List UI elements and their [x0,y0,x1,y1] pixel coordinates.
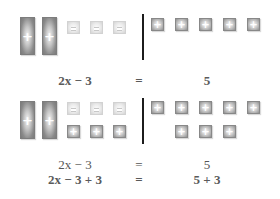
minus-unit-tile [90,21,103,34]
equation-rhs: 5 + 3 [177,172,237,188]
minus-icon [71,27,76,31]
plus-unit-tile: + [223,101,236,114]
plus-icon: + [248,102,259,113]
minus-icon [71,108,76,112]
equation-lhs: 2x − 3 [30,73,120,89]
minus-unit-tile [90,102,103,115]
equation-rhs: 5 [177,157,237,173]
plus-icon: + [43,18,56,54]
added-plus-unit-tile: + [199,125,212,138]
plus-icon: + [152,19,163,30]
plus-unit-tile: + [199,18,212,31]
plus-icon: + [176,102,187,113]
equals-divider [142,98,144,144]
plus-unit-tile: + [175,18,188,31]
plus-icon: + [21,102,34,138]
minus-icon [117,108,122,112]
added-plus-unit-tile: + [90,125,103,138]
plus-icon: + [114,126,125,137]
plus-unit-tile: + [247,18,260,31]
added-plus-unit-tile: + [175,125,188,138]
equation-equals: = [129,73,149,89]
minus-icon [94,27,99,31]
plus-unit-tile: + [223,18,236,31]
x-tile: + [42,17,57,55]
minus-icon [94,108,99,112]
plus-icon: + [21,18,34,54]
added-plus-unit-tile: + [113,125,126,138]
x-tile: + [42,101,57,139]
equation-rhs: 5 [177,73,237,89]
plus-icon: + [91,126,102,137]
added-plus-unit-tile: + [223,125,236,138]
plus-unit-tile: + [175,101,188,114]
plus-icon: + [200,126,211,137]
plus-icon: + [224,126,235,137]
plus-icon: + [200,102,211,113]
plus-icon: + [176,19,187,30]
plus-icon: + [248,19,259,30]
equation-equals: = [129,172,149,188]
plus-icon: + [43,102,56,138]
plus-unit-tile: + [199,101,212,114]
plus-icon: + [152,102,163,113]
minus-unit-tile [113,21,126,34]
plus-icon: + [68,126,79,137]
plus-icon: + [200,19,211,30]
equation-lhs: 2x − 3 [30,157,120,173]
minus-unit-tile [113,102,126,115]
added-plus-unit-tile: + [67,125,80,138]
plus-unit-tile: + [151,18,164,31]
equals-divider [142,14,144,60]
plus-icon: + [176,126,187,137]
equation-lhs: 2x − 3 + 3 [30,172,120,188]
equation-equals: = [129,157,149,173]
x-tile: + [20,17,35,55]
plus-icon: + [224,19,235,30]
minus-unit-tile [67,102,80,115]
plus-unit-tile: + [151,101,164,114]
minus-unit-tile [67,21,80,34]
plus-unit-tile: + [247,101,260,114]
minus-icon [117,27,122,31]
plus-icon: + [224,102,235,113]
x-tile: + [20,101,35,139]
